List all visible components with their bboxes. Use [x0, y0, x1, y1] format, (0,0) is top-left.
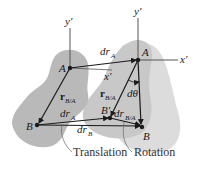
point-A-right-label: A [141, 46, 149, 58]
svg-text:B/A: B/A [105, 94, 116, 102]
point-B-left-label: B [26, 120, 33, 132]
point-B-prime-label: B′ [101, 104, 111, 116]
point-A-left [68, 66, 72, 70]
svg-text:dr: dr [114, 107, 125, 119]
svg-text:B/A: B/A [65, 97, 76, 105]
svg-text:A: A [110, 52, 116, 60]
point-B-left [35, 123, 39, 127]
point-A-right [136, 58, 140, 62]
svg-text:B/A: B/A [125, 114, 136, 122]
x-prime-label-mid: x′ [103, 70, 112, 82]
dtheta-label: dθ [127, 87, 139, 99]
x-prime-label-right: x′ [179, 53, 188, 65]
svg-text:dr: dr [60, 107, 71, 119]
kinematics-diagram: y′ y′ x′ x′ A A B B′ B dθ dr A r B/A r B… [0, 0, 198, 171]
point-B-prime [108, 116, 112, 120]
point-A-left-label: A [58, 62, 66, 74]
svg-text:dr: dr [100, 45, 111, 57]
translation-caption: Translation [73, 145, 127, 159]
rotation-caption: Rotation [134, 145, 175, 159]
svg-text:B: B [88, 130, 93, 138]
point-B-right-label: B [143, 130, 150, 142]
y-prime-label-right: y′ [133, 5, 142, 17]
svg-text:dr: dr [77, 123, 88, 135]
y-prime-label-left: y′ [64, 15, 73, 27]
dr-A-top-label: dr A [100, 45, 116, 60]
point-B-right [140, 125, 144, 129]
svg-text:A: A [70, 114, 76, 122]
